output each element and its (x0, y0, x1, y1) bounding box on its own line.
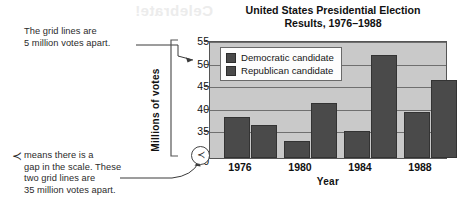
gridline-55 (210, 42, 446, 43)
bar-1976-democratic (224, 117, 250, 158)
y-axis-label: Millions of votes (150, 58, 161, 162)
y-axis-ticks: 55 50 45 40 35 0 (178, 0, 209, 214)
legend-item-democratic: Democratic candidate (226, 51, 334, 64)
gridline-45 (210, 87, 446, 88)
bar-1988-democratic (404, 112, 430, 158)
plot-area: Democratic candidate Republican candidat… (209, 41, 447, 159)
legend-label-republican: Republican candidate (241, 65, 333, 76)
annotation-scale-gap: means there is a gap in the scale. These… (24, 150, 121, 196)
axis-break-icon: ≺ (191, 146, 210, 165)
chart-legend: Democratic candidate Republican candidat… (220, 47, 342, 81)
bar-1984-republican (371, 55, 397, 158)
bar-1988-republican (431, 80, 457, 158)
break-symbol-glyph: ≺ (12, 150, 22, 162)
x-tick-1984: 1984 (337, 161, 383, 173)
bar-1976-republican (251, 125, 277, 158)
legend-swatch-democratic (226, 53, 236, 63)
chart-title-line2: Results, 1976–1988 (208, 17, 458, 30)
x-tick-1988: 1988 (397, 161, 443, 173)
chart-title-line1: United States Presidential Election (208, 4, 458, 17)
chart-title: United States Presidential Election Resu… (208, 4, 458, 30)
legend-label-democratic: Democratic candidate (241, 52, 334, 63)
bar-1980-democratic (284, 141, 310, 158)
annotation-gridline-spacing: The grid lines are 5 million votes apart… (24, 26, 110, 49)
legend-swatch-republican (226, 66, 236, 76)
bar-1984-democratic (344, 131, 370, 158)
bar-1980-republican (311, 103, 337, 158)
x-tick-1976: 1976 (217, 161, 263, 173)
x-axis-label: Year (209, 176, 447, 187)
legend-item-republican: Republican candidate (226, 64, 334, 77)
x-tick-1980: 1980 (277, 161, 323, 173)
